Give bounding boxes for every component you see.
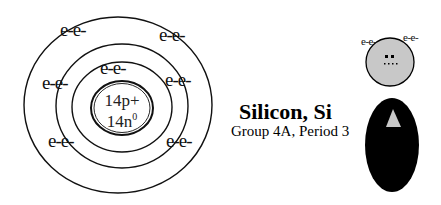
electron-pair-middle-bottom-right: e-e- bbox=[166, 131, 192, 150]
electron-pair-inner-top: e-e- bbox=[100, 58, 126, 77]
lewis-electron-label-left: e-e- bbox=[361, 36, 376, 47]
lewis-dot bbox=[391, 55, 394, 58]
element-subtitle: Group 4A, Period 3 bbox=[231, 123, 349, 140]
nucleus-neutrons: 14n0 bbox=[92, 112, 152, 130]
lewis-dot-small bbox=[388, 63, 390, 65]
electron-pair-middle-bottom-left: e-e- bbox=[48, 131, 74, 150]
electron-pair-middle-right: e-e- bbox=[165, 70, 191, 89]
element-title: Silicon, Si bbox=[239, 99, 332, 125]
lewis-electron-label-right: e-e- bbox=[403, 32, 418, 43]
lewis-dot-small bbox=[396, 63, 398, 65]
electron-pair-middle-left: e-e- bbox=[42, 73, 68, 92]
electron-pair-outer-top-right: e-e- bbox=[159, 25, 185, 44]
lewis-dot-small bbox=[384, 63, 386, 65]
lewis-dot-small bbox=[392, 63, 394, 65]
nucleus-protons: 14p+ bbox=[92, 92, 152, 109]
electron-pair-outer-top-left: e-e- bbox=[60, 20, 86, 39]
lewis-dot bbox=[385, 55, 388, 58]
nucleus-neutrons-count: 14n bbox=[107, 112, 133, 131]
nucleus-neutrons-charge: 0 bbox=[132, 111, 137, 122]
